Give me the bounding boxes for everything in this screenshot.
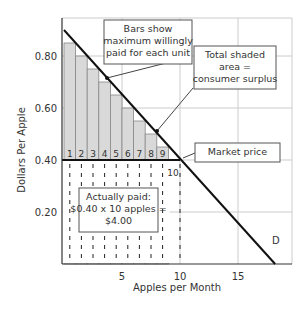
paid-note-text: $4.00 <box>105 215 132 226</box>
bar-label: 6 <box>125 149 131 159</box>
bars-note-text: maximum willingly <box>103 35 193 46</box>
consumer-surplus-chart: 123456789 10 510150.200.400.600.80 D Bar… <box>0 0 302 309</box>
paid-note-text: $0.40 x 10 apples = <box>70 203 166 214</box>
y-tick-label: 0.20 <box>35 207 57 218</box>
y-tick-label: 0.80 <box>35 51 57 62</box>
bar-label: 4 <box>102 149 108 159</box>
bar-label: 1 <box>67 149 73 159</box>
surplus-note-dot <box>155 129 159 133</box>
demand-label: D <box>272 235 280 246</box>
bar-label: 7 <box>137 149 143 159</box>
surplus-note-text: consumer surplus <box>193 73 278 84</box>
x-tick-label: 15 <box>232 271 245 282</box>
bar-label: 2 <box>79 149 85 159</box>
unit-10-label: 10 <box>167 168 179 178</box>
market-price-pointer <box>183 153 195 158</box>
surplus-note-text: area = <box>219 61 251 72</box>
surplus-note-text: Total shaded <box>204 49 265 60</box>
market-price-note-text: Market price <box>208 146 267 157</box>
bar-label: 8 <box>148 149 154 159</box>
x-axis-label: Apples per Month <box>133 282 221 293</box>
bars-note-text: paid for each unit <box>106 47 190 58</box>
paid-note-text: Actually paid: <box>86 191 151 202</box>
y-tick-label: 0.40 <box>35 155 57 166</box>
x-tick-label: 10 <box>174 271 187 282</box>
x-tick-label: 5 <box>119 271 125 282</box>
y-axis-label: Dollars Per Apple <box>16 107 27 193</box>
bar-label: 9 <box>160 149 166 159</box>
y-tick-label: 0.60 <box>35 103 57 114</box>
bar-label: 3 <box>90 149 96 159</box>
surplus-note-pointer <box>157 88 193 131</box>
bars-note-text: Bars show <box>124 23 173 34</box>
bar-label: 5 <box>113 149 119 159</box>
bars-note-dot <box>105 76 109 80</box>
